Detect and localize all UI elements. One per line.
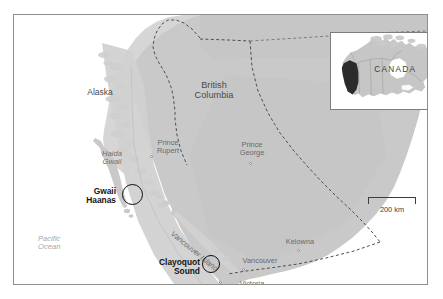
park-marker-clayoquot-sound bbox=[202, 255, 220, 273]
island-label-haida-gwaii: Haida Gwaii bbox=[88, 150, 136, 166]
scale-bar-label: 200 km bbox=[362, 206, 422, 214]
city-label-kelowna: Kelowna bbox=[272, 238, 328, 246]
map-frame: Alaska British Columbia Haida Gwaii Vanc… bbox=[13, 14, 428, 285]
city-label-victoria: Victoria bbox=[226, 280, 278, 285]
city-label-prince-rupert: Prince Rupert bbox=[142, 139, 194, 155]
ocean-label-pacific-ocean: Pacific Ocean bbox=[38, 235, 98, 251]
scale-bar: 200 km bbox=[368, 197, 416, 205]
park-label-gwaii-haanas: Gwaii Haanas bbox=[44, 187, 116, 205]
city-label-prince-george: Prince George bbox=[224, 141, 280, 157]
park-marker-gwaii-haanas bbox=[122, 184, 143, 205]
inset-map-graphic: CANADA bbox=[331, 33, 428, 109]
reference-map-figure: Alaska British Columbia Haida Gwaii Vanc… bbox=[0, 0, 443, 299]
inset-country-label: CANADA bbox=[374, 65, 416, 74]
region-label-alaska: Alaska bbox=[76, 88, 124, 97]
inset-map-canada: CANADA bbox=[330, 32, 428, 110]
park-label-clayoquot-sound: Clayoquot Sound bbox=[124, 258, 200, 276]
region-label-british-columbia: British Columbia bbox=[176, 81, 252, 100]
scale-bar-bracket bbox=[368, 197, 416, 204]
city-label-vancouver: Vancouver bbox=[228, 257, 292, 265]
